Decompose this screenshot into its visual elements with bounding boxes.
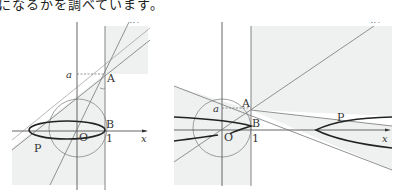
right-A-label: A [241, 97, 251, 110]
right-z-label: z [212, 12, 219, 23]
left-O-label: O [79, 131, 88, 144]
right-shaded-region [251, 26, 392, 116]
left-z-label: z [67, 12, 74, 23]
left-P-label: P [34, 142, 42, 155]
left-axis-label: 軸 [128, 11, 139, 25]
right-axis-label: 軸 [369, 11, 380, 25]
left-z-arrow-icon [76, 16, 79, 22]
left-x-label: x [141, 133, 147, 144]
right-x-label: x [382, 133, 388, 144]
left-figure: z 軸 a A B O 1 x P [12, 11, 150, 190]
right-a-label: a [213, 103, 219, 114]
left-B-label: B [106, 118, 114, 131]
right-O-label: O [224, 131, 233, 144]
right-one-label: 1 [252, 132, 259, 145]
right-figure: z 軸 a A B O 1 x P [174, 11, 392, 186]
right-P-label: P [337, 111, 345, 124]
right-B-label: B [252, 117, 260, 130]
left-one-label: 1 [106, 132, 113, 145]
left-A-label: A [106, 72, 116, 85]
right-z-arrow-icon [221, 16, 224, 22]
figure-canvas: z 軸 a A B O 1 x P [0, 0, 402, 192]
left-a-label: a [66, 69, 72, 80]
right-shaded-wedge [251, 110, 392, 170]
